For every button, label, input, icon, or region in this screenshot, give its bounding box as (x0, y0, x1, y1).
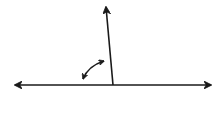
angle-arc (83, 61, 104, 79)
diagram-svg (0, 0, 220, 122)
angle-diagram (0, 0, 220, 122)
ray-line (106, 7, 113, 85)
